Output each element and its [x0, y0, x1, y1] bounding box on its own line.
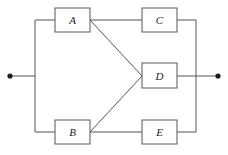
- block-e[interactable]: E: [142, 120, 177, 144]
- block-c-label: C: [156, 14, 164, 26]
- block-c[interactable]: C: [142, 8, 177, 32]
- connection-layer: [10, 20, 218, 132]
- block-a-label: A: [68, 14, 76, 26]
- wire-block-b-to-block-d: [90, 76, 142, 132]
- block-layer: A C D B E: [55, 8, 177, 144]
- block-d-label: D: [155, 70, 164, 82]
- block-e-label: E: [155, 126, 163, 138]
- block-b-label: B: [69, 126, 76, 138]
- left-terminal-dot[interactable]: [7, 73, 12, 78]
- block-d[interactable]: D: [142, 63, 177, 88]
- block-a[interactable]: A: [55, 8, 90, 32]
- wire-block-a-to-block-d: [90, 20, 142, 76]
- diagram-canvas: A C D B E: [0, 0, 228, 155]
- block-b[interactable]: B: [55, 120, 90, 144]
- right-terminal-dot[interactable]: [215, 73, 220, 78]
- reliability-block-diagram: A C D B E: [0, 0, 228, 155]
